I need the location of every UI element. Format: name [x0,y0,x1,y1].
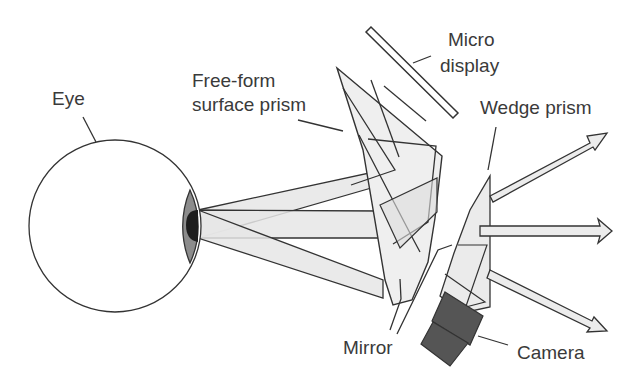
micro-display-label-1: Micro [448,29,494,51]
mirror-label: Mirror [343,337,393,359]
freeform-leader [298,120,343,131]
micro-display-label-2: display [440,55,499,77]
wedge-prism-label: Wedge prism [480,97,592,119]
diagram-canvas [0,0,640,384]
freeform-label-1: Free-form [192,70,275,92]
camera-label: Camera [517,342,585,364]
output-arrows [480,133,612,332]
wedge-prism [440,127,496,313]
eye [29,117,201,312]
eye-label: Eye [52,88,85,110]
optical-diagram: Eye Free-form surface prism Micro displa… [0,0,640,384]
freeform-label-2: surface prism [192,94,306,116]
eye-beams [198,170,392,298]
